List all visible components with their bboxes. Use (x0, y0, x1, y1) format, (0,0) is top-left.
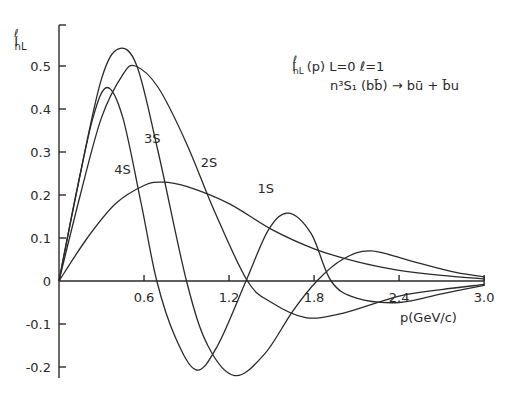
chart: -0.2-0.100.10.20.30.40.50.61.21.82.43.0 … (0, 0, 522, 409)
curve-label-1s: 1S (257, 181, 274, 196)
x-tick-label: 0.6 (134, 290, 155, 305)
curve-label-4s: 4S (114, 162, 131, 177)
y-tick-label: 0.5 (30, 59, 51, 74)
y-axis-title: IℓnL (13, 27, 27, 52)
curve-1s (59, 182, 484, 281)
annotation-line-2: n³S₁ (bb̄) → bū + b̄u (330, 78, 459, 93)
curve-label-2s: 2S (201, 155, 218, 170)
y-tick-label: 0.2 (30, 188, 51, 203)
x-tick-label: 3.0 (474, 290, 495, 305)
y-tick-label: 0.4 (30, 102, 51, 117)
y-tick-label: -0.2 (26, 360, 51, 375)
curve-label-3s: 3S (144, 131, 161, 146)
curve-3s (59, 48, 484, 376)
y-tick-label: 0.3 (30, 145, 51, 160)
y-tick-label: 0.1 (30, 231, 51, 246)
y-tick-label: -0.1 (26, 317, 51, 332)
annotation-line-1: IℓnL(p) L=0 ℓ=1 (292, 54, 384, 76)
x-axis-title: p(GeV/c) (400, 310, 457, 325)
y-tick-label: 0 (43, 274, 51, 289)
curves (59, 48, 484, 376)
